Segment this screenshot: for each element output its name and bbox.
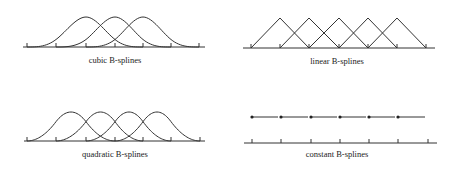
basis-function-curve (368, 18, 426, 48)
basis-function-curve (251, 18, 309, 48)
constant-b-splines-plot (244, 115, 437, 143)
linear-b-splines-caption: linear B-splines (310, 56, 364, 66)
segment-start-dot (309, 115, 312, 118)
segment-start-dot (279, 115, 282, 118)
basis-function-curve (56, 17, 171, 47)
basis-function-curve (86, 17, 199, 47)
segment-start-dot (250, 115, 253, 118)
segment-start-dot (367, 115, 370, 118)
basis-function-curve (27, 17, 143, 47)
cubic-b-splines-plot (23, 17, 205, 47)
basis-function-curve (280, 18, 339, 48)
linear-b-splines-plot (243, 18, 435, 48)
segment-start-dot (338, 115, 341, 118)
cubic-b-splines-caption: cubic B-splines (89, 55, 142, 65)
b-spline-diagram (0, 0, 460, 170)
constant-b-splines-caption: constant B-splines (306, 149, 369, 159)
basis-function-curve (309, 18, 368, 48)
segment-start-dot (396, 115, 399, 118)
basis-function-curve (339, 18, 397, 48)
quadratic-b-splines-plot (24, 112, 205, 141)
quadratic-b-splines-caption: quadratic B-splines (82, 149, 148, 159)
